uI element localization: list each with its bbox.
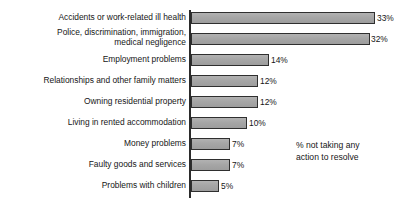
category-label: Police, discrimination, immigration, med… — [0, 27, 186, 47]
bar[interactable] — [191, 180, 219, 193]
chart-row: Owning residential property 12% — [0, 94, 406, 115]
chart-row: Police, discrimination, immigration, med… — [0, 31, 406, 52]
category-label: Accidents or work-related ill health — [0, 12, 186, 22]
chart-row: Relationships and other family matters 1… — [0, 73, 406, 94]
bar[interactable] — [191, 33, 370, 46]
bar[interactable] — [191, 159, 230, 172]
bar-value-label: 7% — [232, 139, 244, 149]
bar[interactable] — [191, 12, 376, 25]
category-label: Problems with children — [0, 180, 186, 190]
chart-annotation: % not taking any action to resolve — [296, 140, 360, 163]
bar-value-label: 10% — [249, 118, 266, 128]
bar-value-label: 7% — [232, 160, 244, 170]
bar-value-label: 12% — [260, 97, 277, 107]
category-label-line1: Police, discrimination, immigration, — [0, 27, 186, 37]
category-label: Relationships and other family matters — [0, 75, 186, 85]
bar-value-label: 33% — [377, 13, 394, 23]
annotation-line1: % not taking any — [296, 140, 360, 152]
chart-row: Problems with children 5% — [0, 178, 406, 199]
bar[interactable] — [191, 54, 269, 67]
category-label: Employment problems — [0, 54, 186, 64]
bar-value-label: 5% — [221, 181, 233, 191]
bar[interactable] — [191, 75, 258, 88]
annotation-line2: action to resolve — [296, 152, 360, 164]
category-label: Living in rented accommodation — [0, 117, 186, 127]
bar-chart: Accidents or work-related ill health 33%… — [0, 0, 406, 208]
bar[interactable] — [191, 117, 247, 130]
category-label: Money problems — [0, 138, 186, 148]
chart-row: Living in rented accommodation 10% — [0, 115, 406, 136]
bar[interactable] — [191, 138, 230, 151]
category-label: Owning residential property — [0, 96, 186, 106]
chart-row: Employment problems 14% — [0, 52, 406, 73]
bar[interactable] — [191, 96, 258, 109]
category-label: Faulty goods and services — [0, 159, 186, 169]
category-label-line2: medical negligence — [0, 37, 186, 47]
bar-value-label: 12% — [260, 76, 277, 86]
bar-value-label: 14% — [271, 55, 288, 65]
bar-value-label: 32% — [371, 34, 388, 44]
